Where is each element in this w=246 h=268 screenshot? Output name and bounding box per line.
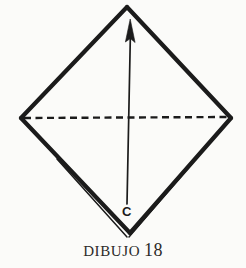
- arrow-head: [125, 19, 135, 43]
- figure-caption-word: DIBUJO: [83, 243, 140, 259]
- diamond-edge-bottom-right: [130, 118, 231, 233]
- crease-line-bottom-left: [57, 159, 127, 237]
- figure-caption: DIBUJO18: [0, 241, 246, 259]
- diagram-canvas: [0, 0, 246, 268]
- arrow-shaft: [127, 34, 130, 204]
- up-arrow-icon: [125, 19, 135, 204]
- vertex-label-c: C: [122, 205, 131, 218]
- dashed-fold-line-icon: [24, 117, 228, 118]
- diamond-edge-top-left: [21, 7, 127, 118]
- figure-caption-number: 18: [144, 240, 163, 260]
- crease-line-bottom-right: [129, 159, 196, 237]
- origami-diagram-figure: C DIBUJO18: [0, 0, 246, 268]
- diamond-edge-bottom-left: [21, 118, 130, 233]
- diamond-edge-top-right: [127, 7, 231, 118]
